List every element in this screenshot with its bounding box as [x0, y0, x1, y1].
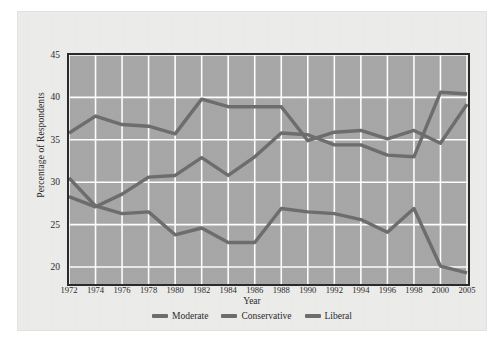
- legend-swatch-icon: [221, 314, 237, 317]
- x-axis-tick-label: 1972: [60, 285, 77, 295]
- gridlines: [69, 55, 468, 284]
- series-line-moderate: [69, 99, 467, 143]
- legend-swatch-icon: [152, 314, 168, 317]
- legend-label: Liberal: [325, 311, 352, 321]
- x-axis-tick-label: 2000: [432, 285, 449, 295]
- x-axis-tick-label: 1992: [326, 285, 343, 295]
- x-axis-tick-label: 1990: [299, 285, 316, 295]
- y-axis-tick-label: 30: [26, 177, 60, 187]
- x-axis-tick-label: 1994: [352, 285, 369, 295]
- x-axis-tick-label: 1986: [246, 285, 263, 295]
- x-axis-tick-label: 1974: [87, 285, 104, 295]
- legend-label: Conservative: [241, 311, 291, 321]
- x-axis-title: Year: [18, 296, 486, 306]
- x-axis-tick-label: 1980: [167, 285, 184, 295]
- y-axis-tick-label: 20: [26, 262, 60, 272]
- x-axis-tick-label: 1982: [193, 285, 210, 295]
- legend-swatch-icon: [305, 314, 321, 317]
- series-line-conservative: [69, 92, 467, 207]
- x-axis-tick-label: 1998: [405, 285, 422, 295]
- plot-area: [67, 53, 470, 286]
- chart-legend: ModerateConservativeLiberal: [18, 311, 486, 321]
- x-axis-tick-label: 1996: [379, 285, 396, 295]
- series-line-liberal: [69, 178, 467, 273]
- y-axis-tick-label: 25: [26, 220, 60, 230]
- y-axis-tick-label: 35: [26, 135, 60, 145]
- legend-item-liberal[interactable]: Liberal: [305, 311, 352, 321]
- line-chart-svg: [69, 55, 468, 284]
- x-axis-tick-label: 2005: [458, 285, 475, 295]
- x-axis-tick-label: 1976: [113, 285, 130, 295]
- y-axis-tick-label: 45: [26, 50, 60, 60]
- y-axis-tick-label: 40: [26, 92, 60, 102]
- legend-label: Moderate: [172, 311, 208, 321]
- x-axis-tick-label: 1984: [220, 285, 237, 295]
- legend-item-conservative[interactable]: Conservative: [221, 311, 291, 321]
- x-axis-tick-label: 1978: [140, 285, 157, 295]
- chart-figure: Percentage of Respondents Year 202530354…: [18, 12, 486, 330]
- legend-item-moderate[interactable]: Moderate: [152, 311, 208, 321]
- x-axis-tick-label: 1988: [273, 285, 290, 295]
- y-axis-title: Percentage of Respondents: [36, 60, 46, 230]
